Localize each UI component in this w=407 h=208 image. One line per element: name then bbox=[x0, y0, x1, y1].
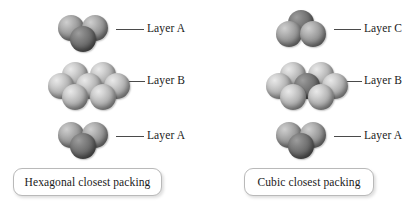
sphere-cluster-hcp-layer-a-bottom bbox=[58, 119, 120, 161]
layer-label-hcp-layer-a-top: Layer A bbox=[147, 22, 185, 34]
sphere bbox=[280, 84, 306, 110]
caption-cubic-closest-packing: Cubic closest packing bbox=[244, 168, 374, 196]
sphere bbox=[300, 21, 326, 47]
caption-hexagonal-closest-packing: Hexagonal closest packing bbox=[13, 168, 162, 196]
layer-label-hcp-layer-a-bottom: Layer A bbox=[147, 129, 185, 141]
sphere bbox=[90, 84, 116, 110]
layer-label-ccp-layer-b: Layer B bbox=[364, 74, 402, 86]
sphere-cluster-hcp-layer-a-top bbox=[58, 12, 120, 54]
leader-line-hcp-layer-a-top bbox=[116, 29, 144, 30]
figure-canvas: Layer A Layer B Layer A Hexagonal closes… bbox=[0, 0, 407, 208]
sphere bbox=[70, 133, 96, 159]
sphere-cluster-ccp-layer-b bbox=[264, 62, 350, 112]
sphere-cluster-ccp-layer-c bbox=[276, 10, 338, 52]
sphere-cluster-ccp-layer-a bbox=[276, 119, 338, 161]
sphere-cluster-hcp-layer-b bbox=[46, 62, 132, 112]
sphere bbox=[308, 84, 334, 110]
leader-line-hcp-layer-a-bottom bbox=[116, 136, 144, 137]
layer-label-hcp-layer-b: Layer B bbox=[147, 74, 185, 86]
leader-line-ccp-layer-c bbox=[334, 29, 361, 30]
sphere bbox=[288, 133, 314, 159]
layer-label-ccp-layer-c: Layer C bbox=[364, 22, 402, 34]
leader-line-ccp-layer-a bbox=[334, 136, 361, 137]
sphere bbox=[276, 21, 302, 47]
layer-label-ccp-layer-a: Layer A bbox=[364, 129, 402, 141]
sphere bbox=[62, 84, 88, 110]
sphere bbox=[70, 26, 96, 52]
